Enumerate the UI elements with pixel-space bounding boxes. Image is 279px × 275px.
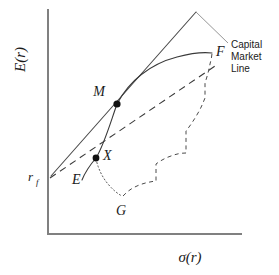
stepped-dashed-frontier bbox=[123, 53, 212, 196]
y-axis-label: E(r) bbox=[12, 47, 29, 73]
annotation-leader-line bbox=[196, 12, 228, 43]
efficient-frontier-curve bbox=[82, 53, 212, 180]
dotted-branch-x-to-g bbox=[96, 159, 122, 196]
point-label-X: X bbox=[102, 148, 112, 163]
point-marker-M bbox=[113, 100, 120, 107]
risk-free-rate-subscript: f bbox=[36, 177, 40, 187]
point-label-M: M bbox=[92, 84, 106, 99]
point-label-E: E bbox=[71, 172, 81, 187]
point-marker-X bbox=[93, 155, 100, 162]
plot-canvas: M X E F G r f E(r) σ(r) Capital Market L… bbox=[0, 0, 279, 275]
capital-market-line-figure: M X E F G r f E(r) σ(r) Capital Market L… bbox=[0, 0, 279, 275]
risk-free-rate-label: r bbox=[28, 169, 34, 184]
point-label-F: F bbox=[215, 44, 225, 59]
point-label-G: G bbox=[116, 203, 126, 218]
annotation-line-1: Capital bbox=[231, 39, 262, 50]
annotation-line-3: Line bbox=[231, 63, 250, 74]
x-axis-label: σ(r) bbox=[178, 249, 201, 266]
annotation-line-2: Market bbox=[231, 51, 262, 62]
